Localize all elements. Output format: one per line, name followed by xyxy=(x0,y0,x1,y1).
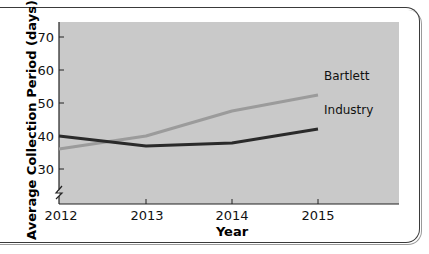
series-label-industry: Industry xyxy=(324,103,373,117)
series-label-bartlett: Bartlett xyxy=(324,69,370,83)
y-tick-label: 50 xyxy=(37,96,54,111)
y-tick-label: 40 xyxy=(37,129,54,144)
y-tick-labels: 70 60 50 40 30 xyxy=(37,30,54,177)
x-tick-label: 2012 xyxy=(44,208,77,223)
x-tick-label: 2013 xyxy=(130,208,163,223)
y-tick-label: 30 xyxy=(37,162,54,177)
x-tick-labels: 2012 2013 2014 2015 xyxy=(44,208,334,223)
y-axis-title: Average Collection Period (days) xyxy=(24,0,39,240)
y-tick-label: 60 xyxy=(37,63,54,78)
y-tick-label: 70 xyxy=(37,30,54,45)
x-tick-label: 2015 xyxy=(301,208,334,223)
x-tick-label: 2014 xyxy=(215,208,248,223)
line-chart: 70 60 50 40 30 2012 2013 2014 2015 Year … xyxy=(0,0,429,254)
x-axis-title: Year xyxy=(215,224,249,239)
